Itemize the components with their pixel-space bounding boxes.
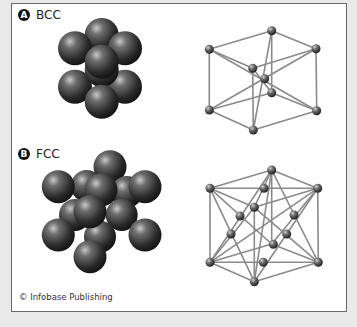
bcc-lattice-atoms [205, 26, 321, 134]
fcc-sphere-model [42, 150, 162, 273]
copyright-credit: © Infobase Publishing [19, 292, 113, 302]
bcc-sphere-model [58, 18, 142, 119]
crystal-diagrams [0, 0, 357, 327]
